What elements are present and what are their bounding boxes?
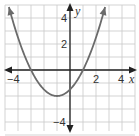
tick-y-4: 4 xyxy=(61,12,67,24)
tick-x-2: 2 xyxy=(93,73,99,85)
tick-y-neg4: −4 xyxy=(53,116,66,128)
y-axis xyxy=(67,3,74,133)
y-axis-up-arrow-icon xyxy=(67,3,74,11)
tick-x-4: 4 xyxy=(118,73,124,85)
tick-y-2: 2 xyxy=(61,38,67,50)
y-axis-down-arrow-icon xyxy=(67,125,74,133)
y-axis-label: y xyxy=(74,4,81,18)
tick-x-neg4: −4 xyxy=(7,73,20,85)
parabola-chart: −4 2 4 x 4 2 −4 y xyxy=(0,0,139,136)
x-axis-label: x xyxy=(128,72,135,86)
